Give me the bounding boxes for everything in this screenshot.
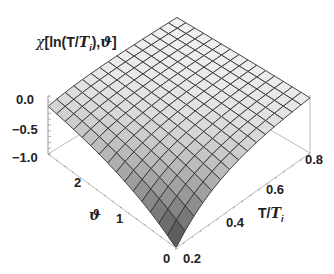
x-axis-label: T/Ti (258, 205, 283, 224)
x-tick-0-8: 0.8 (305, 152, 323, 167)
z-tick-minus-1: −1.0 (12, 150, 38, 165)
z-tick-minus-0-5: −0.5 (12, 122, 38, 137)
z-axis-label: χ[ln(T/Ti),ϑ] (36, 34, 117, 53)
y-tick-1: 1 (116, 211, 123, 226)
x-tick-0-4: 0.4 (226, 215, 244, 230)
y-tick-2: 2 (74, 175, 81, 190)
x-tick-0-2: 0.2 (183, 251, 201, 266)
y-tick-0: 0 (163, 251, 170, 266)
y-axis-label: ϑ (89, 207, 101, 223)
x-tick-0-6: 0.6 (266, 182, 284, 197)
z-tick-0: 0.0 (16, 92, 34, 107)
